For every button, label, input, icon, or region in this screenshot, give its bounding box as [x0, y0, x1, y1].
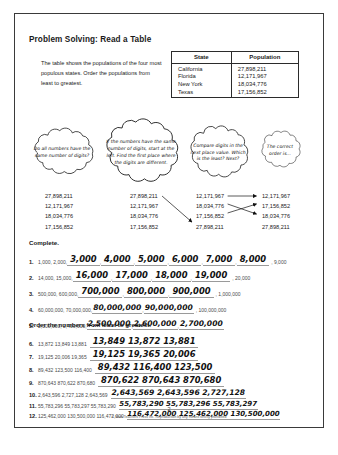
answer-blank[interactable]: 18,000: [152, 271, 190, 282]
exercise-number: 4.: [29, 307, 38, 314]
answer-blank[interactable]: 4,000: [101, 255, 134, 266]
cell-state: Florida: [172, 72, 232, 80]
number-value: 12,171,967: [262, 191, 290, 201]
exercise-given: 89,432 123,500 116,400: [38, 367, 92, 374]
exercise-row: 4.60,000,000, 70,000,000,80,000,000,90,0…: [29, 301, 313, 314]
answer-blank[interactable]: 89,432 116,400 123,500: [95, 363, 215, 374]
number-value: 27,898,211: [45, 191, 73, 201]
number-column-4: 12,171,96717,156,85218,034,77627,898,211: [262, 191, 290, 232]
table-row: California27,898,211: [172, 63, 299, 72]
exercise-row: 1.1,000, 2,000,3,000,4,000,5,000,6,000,7…: [29, 253, 313, 266]
answer-blank[interactable]: 13,849 13,872 13,881: [90, 337, 199, 348]
section-heading-complete: Complete.: [29, 239, 59, 246]
number-value: 12,171,967: [196, 191, 224, 201]
cell-state: California: [172, 63, 232, 72]
cell-state: Texas: [172, 88, 232, 97]
exercise-number: 2.: [29, 275, 38, 282]
cell-population: 17,156,852: [231, 88, 298, 97]
exercise-tail: , 1,000,000: [216, 291, 241, 298]
number-column-3: 12,171,96718,034,77617,156,85227,898,211: [196, 191, 224, 232]
copyright-notice: © Math Teachers Press Inc. Reproduction …: [15, 415, 323, 419]
answer-blank[interactable]: 17,000: [112, 271, 150, 282]
exercise-row: 7.19,125 20,006 19,36519,125 19,365 20,0…: [29, 348, 313, 361]
answer-blank[interactable]: 7,000: [203, 255, 236, 266]
answer-blank[interactable]: 8,000: [237, 255, 270, 266]
table-row: Texas17,156,852: [172, 88, 299, 97]
exercise-row: 6.13,872 13,849 13,88113,849 13,872 13,8…: [29, 335, 313, 348]
answer-blank[interactable]: 3,000: [67, 255, 100, 266]
number-column-2: 27,898,21112,171,96718,034,77617,156,852: [130, 191, 158, 232]
number-column-1: 27,898,21112,171,96718,034,77617,156,852: [45, 191, 73, 232]
cell-state: New York: [172, 80, 232, 88]
number-value: 12,171,967: [45, 201, 73, 211]
exercise-row: 3.500,000, 600,000,700,000,800,000,900,0…: [29, 285, 313, 298]
thought-cloud-1: Do all numbers have the same number of d…: [25, 127, 99, 179]
exercise-given: 13,872 13,849 13,881: [38, 341, 87, 348]
exercise-tail: , 20,000: [232, 275, 250, 282]
cell-population: 27,898,211: [231, 63, 298, 72]
exercise-number: 3.: [29, 291, 38, 298]
table-header-row: State Population: [172, 52, 299, 64]
answer-blank[interactable]: 5,000: [135, 255, 168, 266]
exercise-number: 7.: [29, 354, 38, 361]
number-value: 27,898,211: [262, 222, 290, 232]
exercise-number: 1.: [29, 259, 38, 266]
section-heading-order: Order the numbers from least to greatest…: [29, 321, 151, 328]
worksheet-page: Problem Solving: Read a Table The table …: [14, 13, 324, 428]
answer-blank[interactable]: 6,000: [169, 255, 202, 266]
cloud-1-text: Do all numbers have the same number of d…: [32, 146, 92, 160]
thought-cloud-3: Compare digits in the next place value. …: [182, 124, 254, 182]
population-table: State Population California27,898,211Flo…: [171, 51, 299, 98]
number-value: 17,156,852: [262, 201, 290, 211]
exercise-given: 60,000,000, 70,000,000,: [38, 307, 92, 314]
number-value: 18,034,776: [130, 211, 158, 221]
exercise-number: 8.: [29, 367, 38, 374]
number-value: 17,156,852: [196, 211, 224, 221]
number-value: 18,034,776: [262, 211, 290, 221]
number-value: 12,171,967: [130, 201, 158, 211]
number-value: 27,898,211: [196, 222, 224, 232]
exercise-given: 19,125 20,006 19,365: [38, 354, 87, 361]
exercise-given: 500,000, 600,000,: [38, 291, 78, 298]
number-value: 17,156,852: [130, 222, 158, 232]
page-number: 2: [15, 406, 323, 412]
exercise-row: 8.89,432 123,500 116,40089,432 116,400 1…: [29, 361, 313, 374]
table-header-population: Population: [231, 52, 298, 64]
table-header-state: State: [172, 52, 232, 64]
cloud-2-text: If the numbers have the same number of d…: [105, 139, 177, 167]
cell-population: 18,034,776: [231, 80, 298, 88]
exercise-tail: , 9,000: [271, 259, 286, 266]
exercise-given: 14,000, 15,000,: [38, 275, 73, 282]
exercise-row: 2.14,000, 15,000,16,000,17,000,18,000,19…: [29, 269, 313, 282]
answer-blank[interactable]: 900,000: [169, 287, 213, 298]
thought-cloud-4: The correct order is...: [255, 128, 305, 174]
number-value: 17,156,852: [45, 222, 73, 232]
answer-blank[interactable]: 2,700,000: [179, 320, 224, 330]
exercise-tail: , 100,000,000: [196, 307, 227, 314]
answer-blank[interactable]: 19,000: [192, 271, 230, 282]
cloud-4-text: The correct order is...: [262, 144, 298, 158]
answer-blank[interactable]: 90,000,000: [144, 304, 194, 314]
cell-population: 12,171,967: [231, 72, 298, 80]
thought-cloud-2: If the numbers have the same number of d…: [98, 117, 184, 189]
table-row: New York18,034,776: [172, 80, 299, 88]
answer-blank[interactable]: 80,000,000: [92, 304, 142, 314]
answer-blank[interactable]: 800,000: [124, 287, 168, 298]
page-title: Problem Solving: Read a Table: [29, 35, 151, 44]
answer-blank[interactable]: 19,125 19,365 20,006: [90, 350, 199, 361]
number-value: 27,898,211: [130, 191, 158, 201]
cloud-3-text: Compare digits in the next place value. …: [189, 143, 247, 164]
number-value: 18,034,776: [196, 201, 224, 211]
number-value: 18,034,776: [45, 211, 73, 221]
answer-blank[interactable]: 16,000: [73, 271, 111, 282]
exercise-number: 6.: [29, 341, 38, 348]
exercise-given: 1,000, 2,000,: [38, 259, 67, 266]
answer-blank[interactable]: 700,000: [78, 287, 122, 298]
ordering-demonstration: 27,898,21112,171,96718,034,77617,156,852…: [15, 191, 323, 235]
intro-text: The table shows the populations of the f…: [41, 58, 163, 89]
table-row: Florida12,171,967: [172, 72, 299, 80]
